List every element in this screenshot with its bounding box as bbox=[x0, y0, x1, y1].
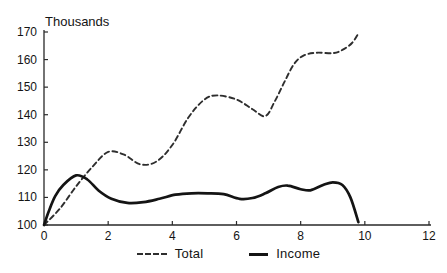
series-line-total bbox=[44, 33, 358, 225]
y-tick-label: 170 bbox=[17, 25, 37, 39]
y-tick-label: 110 bbox=[18, 190, 37, 204]
x-tick-label: 10 bbox=[358, 229, 372, 243]
y-tick-label: 150 bbox=[17, 80, 37, 94]
y-tick-label: 100 bbox=[17, 218, 37, 232]
chart-canvas: 100110120130140150160170024681012Thousan… bbox=[0, 0, 447, 273]
x-tick-label: 8 bbox=[297, 229, 304, 243]
axes bbox=[44, 30, 431, 225]
x-tick-label: 2 bbox=[105, 229, 112, 243]
y-tick-label: 130 bbox=[17, 135, 37, 149]
x-tick-label: 12 bbox=[422, 229, 436, 243]
y-tick-label: 120 bbox=[17, 163, 37, 177]
y-tick-label: 140 bbox=[17, 108, 37, 122]
x-tick-label: 4 bbox=[169, 229, 176, 243]
y-axis-title: Thousands bbox=[45, 14, 110, 29]
series-line-income bbox=[44, 175, 358, 225]
x-tick-label: 0 bbox=[41, 229, 48, 243]
y-tick-label: 160 bbox=[17, 53, 37, 67]
x-tick-label: 6 bbox=[233, 229, 240, 243]
line-chart: 100110120130140150160170024681012Thousan… bbox=[0, 0, 447, 273]
